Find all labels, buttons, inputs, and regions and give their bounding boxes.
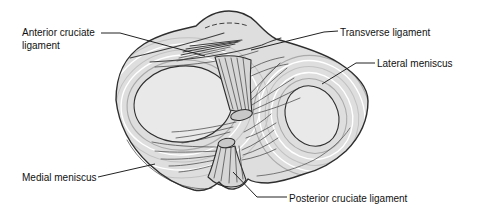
label-posterior-cruciate-ligament: Posterior cruciate ligament: [289, 192, 407, 205]
label-anterior-cruciate-ligament: Anterior cruciate ligament: [22, 26, 106, 52]
figure-canvas: Anterior cruciate ligament Transverse li…: [0, 0, 478, 210]
label-medial-meniscus: Medial meniscus: [22, 171, 96, 184]
leader-medial-meniscus: [98, 164, 155, 177]
label-transverse-ligament: Transverse ligament: [340, 26, 430, 39]
label-lateral-meniscus: Lateral meniscus: [377, 57, 453, 70]
